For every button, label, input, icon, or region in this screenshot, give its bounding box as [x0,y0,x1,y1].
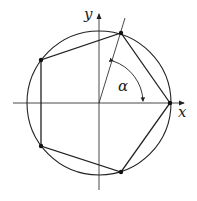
pentagon [41,33,170,172]
x-axis-label: x [178,103,187,121]
y-axis-label: y [83,5,93,23]
angle-label: α [118,77,128,95]
vertex-points [39,31,172,174]
pentagon-diagram: y x α [0,0,197,201]
